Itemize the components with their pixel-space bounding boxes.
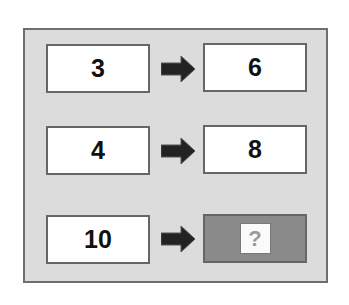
arrow-right-icon: [161, 226, 197, 252]
input-value-1: 3: [91, 54, 105, 83]
output-value-1: 6: [248, 53, 262, 82]
output-box-1: 6: [203, 43, 307, 92]
input-box-1: 3: [46, 44, 150, 93]
input-box-2: 4: [46, 126, 150, 175]
output-box-2: 8: [203, 125, 307, 174]
input-box-3: 10: [46, 215, 150, 264]
input-value-2: 4: [91, 136, 105, 165]
input-value-3: 10: [84, 225, 112, 254]
unknown-value: ?: [248, 226, 261, 252]
arrow-right-icon: [161, 138, 197, 164]
output-value-2: 8: [248, 135, 262, 164]
question-mark-icon: ?: [240, 223, 271, 254]
puzzle-frame: 3 6 4 8 10 ?: [23, 28, 328, 283]
arrow-right-icon: [161, 56, 197, 82]
unknown-output-box: ?: [203, 214, 307, 263]
